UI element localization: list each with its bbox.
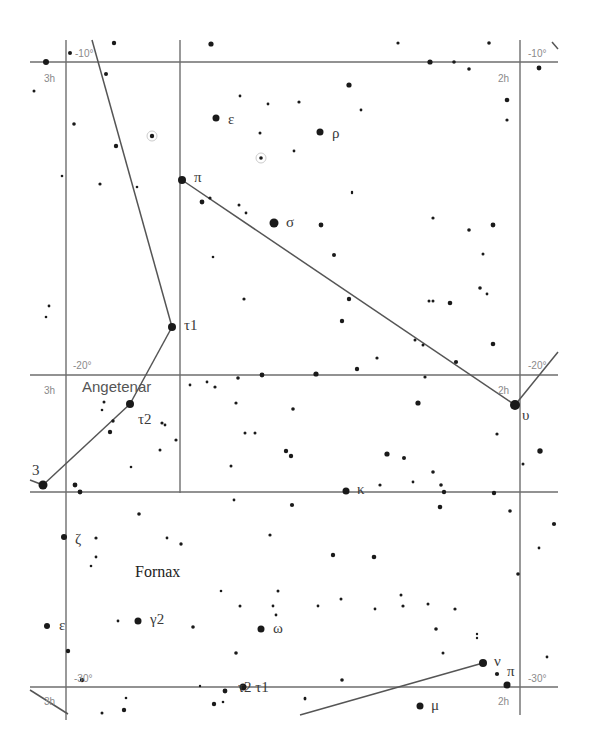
star (117, 620, 120, 623)
star (122, 708, 126, 712)
star (432, 300, 435, 303)
star (340, 598, 343, 601)
star (401, 604, 404, 607)
star (439, 483, 443, 487)
star (508, 509, 512, 513)
star (442, 490, 446, 494)
star (137, 512, 141, 516)
star-label: ω (273, 620, 283, 636)
star (384, 451, 389, 456)
ra-3h-mid: 3h (44, 385, 55, 396)
star-dot (135, 618, 142, 625)
dec-minus30-right: -30° (528, 673, 546, 684)
star (208, 41, 213, 46)
star-dot (178, 176, 186, 184)
star (289, 454, 293, 458)
star (427, 59, 432, 64)
star-dot (61, 534, 67, 540)
star (360, 109, 363, 112)
star-label: τ2 τ1 (238, 679, 269, 695)
star (275, 614, 278, 617)
dec-minus20-left: -20° (73, 360, 91, 371)
star-dot (343, 488, 350, 495)
star (505, 118, 508, 121)
star (438, 505, 443, 510)
star (412, 481, 415, 484)
star (331, 553, 335, 557)
star (442, 652, 445, 655)
dec-minus10-left: -10° (75, 48, 93, 59)
star (259, 156, 263, 160)
star (346, 82, 351, 87)
star (244, 432, 247, 435)
star (33, 90, 36, 93)
star-dot (213, 115, 220, 122)
star (400, 594, 403, 597)
star (375, 356, 378, 359)
star (487, 41, 491, 45)
star (402, 456, 406, 460)
star (111, 419, 114, 422)
star-label: κ (357, 481, 365, 497)
star (476, 633, 478, 635)
star (199, 685, 201, 687)
star (290, 503, 294, 507)
star (378, 483, 381, 486)
star (94, 536, 97, 539)
star (467, 228, 471, 232)
star (114, 144, 118, 148)
star (434, 627, 438, 631)
star (130, 466, 133, 469)
angetenar-label: Angetenar (82, 378, 151, 395)
star (552, 522, 556, 526)
star (319, 223, 324, 228)
star (103, 401, 106, 404)
star (245, 212, 248, 215)
star (495, 672, 499, 676)
star (347, 297, 351, 301)
star (431, 216, 434, 219)
ra-3h-bottom: 3h (44, 696, 55, 707)
star-label: υ (522, 407, 529, 423)
star (166, 537, 169, 540)
star (537, 448, 542, 453)
star (491, 223, 496, 228)
star (191, 625, 195, 629)
star (164, 424, 167, 427)
star (422, 344, 425, 347)
star (537, 66, 542, 71)
star (546, 656, 549, 659)
star (454, 360, 458, 364)
star (428, 300, 431, 303)
star (206, 381, 209, 384)
star (98, 182, 101, 185)
star (125, 697, 128, 700)
star (222, 701, 225, 704)
star (101, 409, 104, 412)
star (538, 547, 541, 550)
star (431, 470, 435, 474)
star (340, 319, 344, 323)
star-label: σ (286, 214, 294, 230)
star (90, 565, 93, 568)
star-label: ρ (332, 125, 340, 141)
star (68, 51, 72, 55)
star (453, 607, 456, 610)
star (476, 637, 478, 639)
star (297, 100, 300, 103)
star (293, 150, 296, 153)
star (159, 449, 162, 452)
ra-2h-mid: 2h (498, 385, 509, 396)
star (239, 605, 242, 608)
star (238, 204, 241, 207)
ra-2h-bottom: 2h (498, 696, 509, 707)
star (492, 491, 496, 495)
star (355, 367, 359, 371)
star (374, 608, 377, 611)
star (304, 697, 307, 700)
star (277, 590, 280, 593)
star (220, 590, 223, 593)
star (61, 175, 64, 178)
star (259, 132, 262, 135)
star (260, 373, 265, 378)
